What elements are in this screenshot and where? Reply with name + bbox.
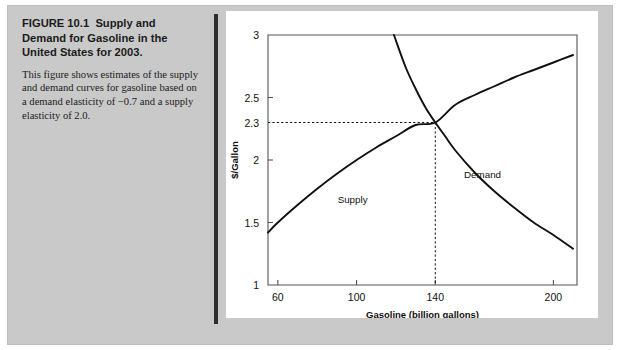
y-tick-label: 3 (253, 29, 259, 41)
supply-curve (268, 55, 573, 233)
caption-body: This figure shows estimates of the suppl… (22, 68, 202, 122)
demand-curve (394, 35, 573, 249)
x-tick-labels: 60100140200 (272, 291, 562, 303)
x-tick-label: 100 (348, 291, 366, 303)
caption-chart-divider (214, 14, 218, 324)
x-tick-label: 200 (545, 291, 563, 303)
y-tick-labels: 11.522.32.53 (244, 29, 259, 291)
y-tick-label: 2.3 (244, 117, 259, 129)
plot-frame (268, 35, 577, 285)
supply-demand-chart: 60100140200 11.522.32.53 Supply Demand G… (226, 11, 598, 318)
supply-curve-label: Supply (338, 194, 368, 205)
figure-number: FIGURE 10.1 (22, 17, 89, 29)
figure-caption: FIGURE 10.1 Supply and Demand for Gasoli… (22, 16, 202, 122)
figure-root: FIGURE 10.1 Supply and Demand for Gasoli… (0, 0, 620, 350)
y-axis-title: $/Gallon (229, 141, 240, 179)
x-axis-title: Gasoline (billion gallons) (366, 309, 479, 318)
chart-panel: 60100140200 11.522.32.53 Supply Demand G… (226, 11, 598, 318)
demand-curve-label: Demand (464, 169, 501, 180)
y-tick-label: 1.5 (244, 217, 259, 229)
y-axis-ticks (268, 98, 273, 223)
y-tick-label: 2 (253, 154, 259, 166)
x-axis-ticks (278, 280, 554, 285)
y-tick-label: 2.5 (244, 92, 259, 104)
y-tick-label: 1 (253, 279, 259, 291)
x-tick-label: 140 (427, 291, 445, 303)
caption-title: FIGURE 10.1 Supply and Demand for Gasoli… (22, 16, 202, 60)
x-tick-label: 60 (272, 291, 284, 303)
